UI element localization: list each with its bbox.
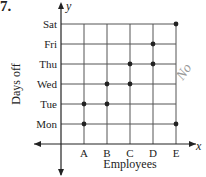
x-axis-variable: x: [195, 139, 202, 153]
data-point: [82, 122, 87, 127]
tick-labels: ABCDEMonTueWedThuFriSat: [36, 18, 179, 159]
scatter-chart: ABCDEMonTueWedThuFriSat Employees Days o…: [0, 0, 206, 177]
y-axis-down-arrow-icon: [58, 169, 64, 176]
y-axis-variable: y: [65, 0, 72, 13]
y-tick-label: Sat: [43, 18, 57, 30]
x-tick-label: A: [80, 147, 88, 159]
x-axis-right-arrow-icon: [189, 141, 196, 147]
y-axis-up-arrow-icon: [58, 2, 64, 9]
x-axis-label: Employees: [103, 157, 157, 171]
y-tick-label: Thu: [39, 58, 57, 70]
data-point: [105, 82, 110, 87]
y-axis-label: Days off: [9, 63, 23, 104]
x-tick-label: E: [173, 147, 180, 159]
data-point: [128, 62, 133, 67]
data-point: [82, 102, 87, 107]
y-tick-label: Fri: [44, 38, 57, 50]
data-point: [151, 42, 156, 47]
x-axis-left-arrow-icon: [34, 141, 41, 147]
data-point: [105, 102, 110, 107]
y-tick-label: Mon: [36, 118, 57, 130]
y-tick-label: Wed: [37, 78, 57, 90]
y-tick-label: Tue: [40, 98, 57, 110]
grid-lines: [61, 24, 176, 144]
data-point: [128, 82, 133, 87]
data-point: [151, 62, 156, 67]
data-point: [174, 22, 179, 27]
data-point: [174, 122, 179, 127]
